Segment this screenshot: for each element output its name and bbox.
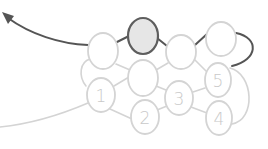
active-thread-exit [8, 18, 88, 45]
bead-shape [128, 60, 158, 96]
bead-top-highlighted [128, 18, 158, 54]
thread-loop-right [230, 68, 249, 124]
bead-number-label: 3 [174, 89, 185, 109]
arrowhead-icon [2, 12, 14, 24]
thread-middle-to-3 [156, 86, 166, 90]
bead-bead-1: 1 [87, 78, 115, 112]
bead-number-label: 1 [96, 86, 107, 106]
beads: 12354 [87, 18, 236, 135]
bead-middle-center [128, 60, 158, 96]
bead-shape [166, 35, 196, 69]
highlighted-bead-shape [128, 18, 158, 54]
thread-1-to-2 [110, 109, 132, 119]
entry-thread [0, 103, 88, 127]
bead-top-middle [166, 35, 196, 69]
bead-top-right [206, 22, 236, 56]
beadwork-diagram: 12354 [0, 0, 268, 149]
bead-shape [88, 33, 118, 69]
thread-3-to-5 [193, 88, 205, 92]
bead-number-label: 4 [214, 109, 225, 129]
bead-bead-5: 5 [205, 63, 231, 97]
thread-loop-left [81, 59, 90, 86]
thread-topleft-to-middle [116, 64, 130, 70]
bead-number-label: 5 [213, 71, 224, 91]
bead-shape [206, 22, 236, 56]
bead-top-left [88, 33, 118, 69]
bead-bead-2: 2 [131, 100, 159, 134]
thread-3-to-4 [191, 107, 207, 113]
bead-bead-3: 3 [165, 81, 193, 115]
diagram-canvas: 12354 [0, 0, 268, 149]
thread-middle-to-topmid [156, 63, 168, 70]
thread-topmid-to-5 [195, 60, 206, 71]
bead-bead-4: 4 [206, 101, 232, 135]
thread-1-to-middle [114, 77, 129, 86]
bead-number-label: 2 [140, 108, 151, 128]
